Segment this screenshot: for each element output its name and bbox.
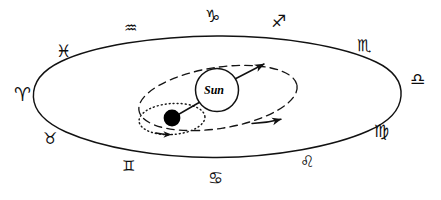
zodiac-sign-cancer: ♋ <box>208 170 223 187</box>
earth-dot <box>164 110 181 127</box>
zodiac-sign-gemini: ♊ <box>122 159 135 174</box>
zodiac-sign-virgo: ♍ <box>374 123 389 140</box>
zodiac-sign-capricorn: ♑ <box>205 8 220 25</box>
zodiac-sign-leo: ♌ <box>300 154 314 170</box>
moon-orbit-direction-arrow <box>156 133 171 135</box>
zodiac-sign-scorpio: ♏ <box>357 38 371 54</box>
sun-label: Sun <box>204 84 224 96</box>
zodiac-sign-aries: ♈ <box>14 85 31 104</box>
zodiac-sign-taurus: ♉ <box>43 131 57 147</box>
zodiac-sign-libra: ♎ <box>410 71 425 88</box>
diagram-canvas: Sun ♈ ♉ ♊ ♋ ♌ ♍ ♎ ♏ ♐ ♑ ♒ ♓ <box>0 0 441 200</box>
zodiac-sign-pisces: ♓ <box>56 43 71 60</box>
zodiac-sign-sagittarius: ♐ <box>271 13 286 30</box>
zodiac-sign-aquarius: ♒ <box>124 21 137 36</box>
